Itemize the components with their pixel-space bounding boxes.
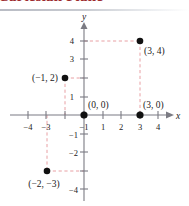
- x-tick-label-m4: −4: [23, 122, 33, 132]
- data-point-3-0: [136, 111, 143, 118]
- data-point-3-4: [137, 38, 144, 45]
- y-axis-arrow: [81, 22, 88, 29]
- y-tick-label-4: 4: [70, 36, 75, 46]
- y-tick-label-3: 3: [70, 54, 74, 64]
- x-tick-label-1: 1: [101, 122, 105, 132]
- y-tick-label-1: 1: [70, 92, 74, 102]
- data-point-m1-2: [62, 75, 69, 82]
- x-tick-label-m1: −1: [79, 122, 88, 132]
- y-tick-label-m4: −4: [69, 185, 79, 195]
- page-title: Cartesian Plane: [0, 0, 103, 5]
- x-tick-label-m3: −3: [41, 122, 50, 132]
- cartesian-plane-figure: x y −4 −3 −1 1 2 3 4 4 3 1 −1 −2 −4: [0, 11, 189, 206]
- data-point-label-0-0: (0, 0): [88, 100, 109, 111]
- chapter-title-strip: Cartesian Plane: [0, 0, 189, 9]
- x-tick-label-4: 4: [156, 122, 161, 132]
- x-axis-arrow: [166, 112, 174, 119]
- figure-page: Cartesian Plane: [0, 0, 189, 206]
- x-tick-label-2: 2: [119, 122, 123, 132]
- data-point-label-3-4: (3, 4): [144, 46, 165, 57]
- y-tick-label-m1: −1: [69, 130, 78, 140]
- data-point-label-3-0: (3, 0): [143, 100, 164, 111]
- x-axis-label: x: [175, 111, 181, 121]
- data-point-label-m2-m3: (−2, −3): [28, 179, 59, 190]
- data-point-0-0: [80, 111, 87, 118]
- y-axis-label: y: [81, 12, 87, 22]
- x-tick-label-3: 3: [138, 122, 142, 132]
- data-point-label-m1-2: (−1, 2): [32, 73, 58, 84]
- y-tick-label-m2: −2: [69, 148, 78, 158]
- data-point-m2-m3: [44, 168, 51, 175]
